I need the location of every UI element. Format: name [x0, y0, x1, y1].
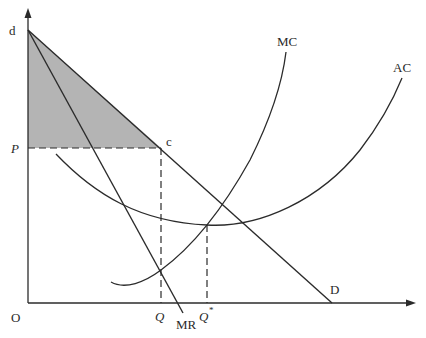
y-axis-arrow-icon: [25, 8, 32, 18]
label-q-star-superscript: *: [209, 305, 214, 315]
label-origin: O: [11, 310, 20, 325]
label-q: Q: [155, 309, 165, 324]
label-ac: AC: [393, 60, 411, 75]
label-q-star: Q: [199, 309, 209, 324]
label-d: d: [9, 23, 16, 38]
label-demand: D: [330, 282, 339, 297]
demand-curve: [28, 30, 332, 303]
label-mr: MR: [176, 317, 197, 332]
marginal-cost-curve: [111, 52, 286, 285]
average-cost-curve: [56, 78, 402, 225]
label-mc: MC: [277, 34, 297, 49]
label-p: P: [10, 141, 19, 156]
monopoly-diagram: d P c MC AC D O Q MR Q *: [0, 0, 426, 338]
label-c: c: [166, 134, 172, 149]
x-axis-arrow-icon: [406, 300, 416, 307]
